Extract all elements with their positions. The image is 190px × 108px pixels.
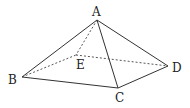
vertex-label-d: D: [172, 61, 182, 75]
edge-CD: [118, 66, 168, 88]
vertex-label-c: C: [115, 91, 124, 105]
edge-AE: [76, 20, 97, 55]
vertex-label-e: E: [76, 58, 85, 72]
vertex-label-a: A: [91, 5, 101, 19]
edge-AC: [97, 20, 118, 88]
edge-AD: [97, 20, 168, 66]
dashed-edges: [22, 20, 168, 77]
edge-BC: [22, 77, 118, 88]
edge-AB: [22, 20, 97, 77]
edge-BE: [22, 55, 76, 77]
pyramid-diagram: A B C D E: [0, 0, 190, 108]
vertex-label-b: B: [8, 73, 17, 87]
solid-edges: [22, 20, 168, 88]
